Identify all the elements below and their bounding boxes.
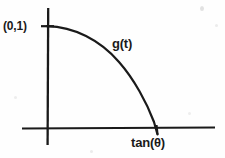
curve-g-of-t [47, 26, 158, 134]
horizontal-axis [22, 128, 215, 129]
curve-label-g-of-t: g(t) [112, 37, 132, 50]
x-intercept-label: tan(θ) [131, 136, 165, 149]
y-intercept-label: (0,1) [3, 20, 27, 32]
vertical-axis [48, 8, 49, 145]
figure-graphic [0, 0, 225, 158]
x-intercept-tick [157, 125, 158, 135]
figure-canvas: (0,1) g(t) tan(θ) [0, 0, 225, 158]
